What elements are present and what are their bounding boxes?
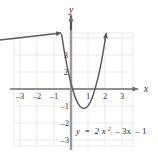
- equation-coef-a: 2: [95, 126, 100, 136]
- equation-term-c: – 1: [134, 126, 146, 136]
- equation-equals: =: [85, 126, 90, 136]
- equation-term-b: – 3x: [114, 126, 131, 136]
- quadratic-graph-figure: –3 –2 –1 1 2 3 3 2 –1 –2 –3 y x y = 2 x …: [0, 0, 158, 155]
- equation-exponent: 2: [108, 126, 111, 132]
- y-tick-label-2: 2: [64, 67, 68, 77]
- x-tick-label-3: 3: [120, 91, 124, 101]
- y-tick-label-neg2: –2: [60, 118, 70, 128]
- y-axis-label: y: [68, 5, 74, 15]
- x-tick-label-neg3: –3: [15, 91, 25, 101]
- x-tick-label-neg1: –1: [49, 91, 59, 101]
- equation-lhs: y: [75, 126, 80, 136]
- y-tick-label-3: 3: [64, 50, 68, 60]
- y-tick-label-neg1: –1: [60, 101, 70, 111]
- x-tick-label-1: 1: [86, 91, 90, 101]
- equation-variable: x: [101, 126, 106, 136]
- x-tick-label-2: 2: [103, 91, 107, 101]
- y-tick-label-neg3: –3: [60, 135, 70, 145]
- x-tick-label-neg2: –2: [32, 91, 42, 101]
- coordinate-plane: –3 –2 –1 1 2 3 3 2 –1 –2 –3 y x y = 2 x …: [0, 0, 158, 155]
- x-axis-label: x: [143, 84, 149, 94]
